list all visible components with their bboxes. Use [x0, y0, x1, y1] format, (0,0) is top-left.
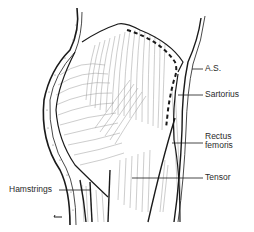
skin-stipple-left: [47, 25, 77, 211]
skin-outline-right: [174, 16, 206, 222]
label-as: A.S.: [205, 64, 221, 73]
anatomy-illustration: [0, 0, 254, 232]
muscle-fiber-hatching: [56, 30, 181, 222]
scale-mark: [54, 215, 62, 217]
label-tensor: Tensor: [205, 173, 231, 182]
label-rectus-line2: femoris: [205, 141, 233, 150]
label-sartorius: Sartorius: [205, 90, 239, 99]
label-hamstrings: Hamstrings: [9, 185, 52, 194]
